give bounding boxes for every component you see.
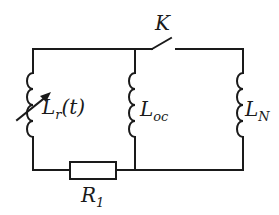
inductor-coil-icon bbox=[129, 73, 135, 137]
switch-blade[interactable] bbox=[152, 38, 171, 49]
variable-inductor-label: Lr(t) bbox=[41, 95, 85, 122]
inductor-coil-icon bbox=[237, 73, 243, 137]
inductor-coil-icon bbox=[27, 73, 33, 137]
circuit-diagram: K Lr(t) Loc LN R1 bbox=[0, 0, 279, 215]
switch-label: K bbox=[154, 11, 171, 35]
inductor-n-label: LN bbox=[244, 97, 270, 124]
top-right-wire bbox=[176, 49, 243, 73]
resistor-label: R1 bbox=[80, 183, 104, 210]
variable-inductor bbox=[17, 73, 51, 170]
resistor-icon bbox=[70, 162, 116, 179]
inductor-oc-label: Loc bbox=[139, 97, 169, 124]
inductor-oc bbox=[129, 73, 135, 170]
switch-k[interactable] bbox=[152, 38, 243, 73]
inductor-n bbox=[237, 73, 243, 170]
